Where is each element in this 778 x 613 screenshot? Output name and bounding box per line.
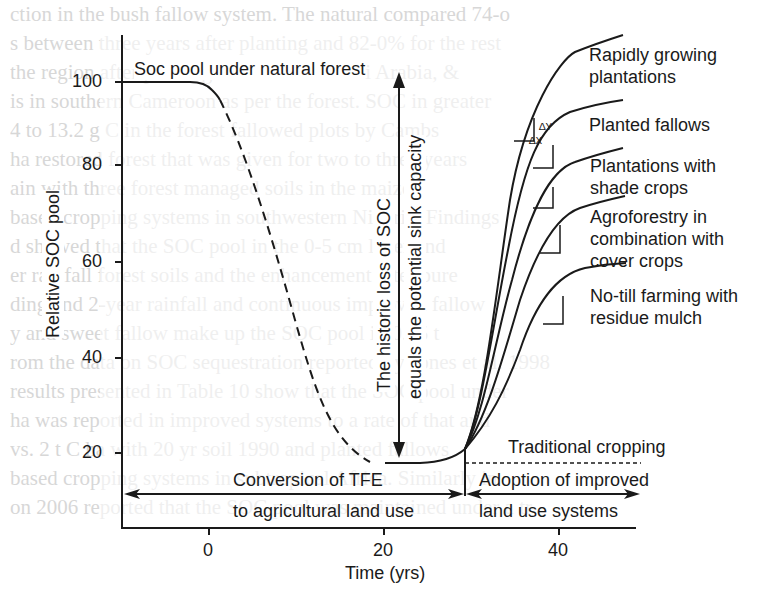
conversion-label-line2: to agricultural land use xyxy=(233,500,414,522)
x-axis-label: Time (yrs) xyxy=(345,562,425,584)
x-tick-40: 40 xyxy=(548,540,568,561)
label-rapidly-growing-line1: Rapidly growing xyxy=(589,44,717,66)
historic-loss-label-line1: The historic loss of SOC xyxy=(373,198,395,392)
label-planted-fallows: Planted fallows xyxy=(589,114,710,136)
label-agroforestry-line3: cover crops xyxy=(590,250,683,272)
adoption-label-line2: land use systems xyxy=(479,500,618,522)
label-shade-crops-line2: shade crops xyxy=(590,177,688,199)
x-tick-0: 0 xyxy=(203,540,213,561)
conversion-label-line1: Conversion of TFE xyxy=(233,469,383,491)
y-tick-20: 20 xyxy=(82,442,102,463)
label-no-till-line1: No-till farming with xyxy=(590,285,738,307)
delta-y-label: ΔY xyxy=(539,121,552,133)
adoption-label-line1: Adoption of improved xyxy=(479,469,649,491)
label-agroforestry-line2: combination with xyxy=(590,228,724,250)
y-tick-60: 60 xyxy=(82,251,102,272)
label-agroforestry-line1: Agroforestry in xyxy=(590,206,707,228)
y-tick-100: 100 xyxy=(72,71,102,92)
label-no-till-line2: residue mulch xyxy=(590,307,702,329)
delta-x-label: ΔX xyxy=(529,135,542,147)
x-tick-20: 20 xyxy=(373,540,393,561)
label-shade-crops-line1: Plantations with xyxy=(590,155,716,177)
y-tick-40: 40 xyxy=(82,347,102,368)
y-axis-label: Relative SOC pool xyxy=(42,190,64,338)
traditional-cropping-label: Traditional cropping xyxy=(508,436,665,458)
historic-loss-label-line2: equals the potential sink capacity xyxy=(404,135,426,399)
label-rapidly-growing-line2: plantations xyxy=(589,66,676,88)
y-tick-80: 80 xyxy=(82,154,102,175)
natural-forest-label: Soc pool under natural forest xyxy=(134,58,365,80)
